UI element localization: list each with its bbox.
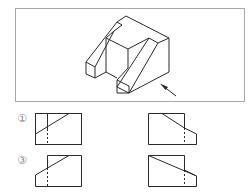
figure-frame — [16, 9, 245, 102]
arrow-icon — [160, 84, 176, 97]
diagram-canvas — [0, 0, 251, 195]
option-3-label[interactable]: ③ — [17, 155, 27, 166]
option-4-drawing[interactable] — [149, 156, 197, 187]
option-3-drawing[interactable] — [36, 156, 82, 187]
option-1-label[interactable]: ① — [17, 113, 27, 124]
option-2-drawing[interactable] — [149, 114, 197, 145]
isometric-object — [86, 16, 169, 93]
option-1-drawing[interactable] — [36, 114, 82, 145]
